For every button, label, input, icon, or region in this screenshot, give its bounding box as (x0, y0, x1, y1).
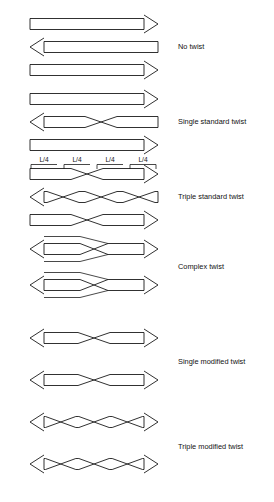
bar-row (30, 413, 158, 431)
segment-label-row: L/4L/4L/4L/4 (31, 156, 156, 169)
segment-label-quarter: L/4 (105, 156, 114, 163)
arrowhead-left (30, 188, 44, 206)
group-label-triple-standard-twist: Triple standard twist (178, 192, 244, 201)
bar-row (30, 15, 158, 33)
bar-rail-bottom (44, 459, 144, 470)
arrowhead-left (30, 240, 44, 258)
bar-rail-bottom (44, 244, 144, 255)
arrowhead-right (144, 371, 158, 389)
twist-group-single-standard-twist: Single standard twist (30, 90, 246, 154)
twist-configurations-figure: No twistSingle standard twistTriple stan… (0, 0, 274, 502)
bar-row (30, 237, 158, 262)
arrowhead-right (144, 413, 158, 431)
group-label-triple-modified-twist: Triple modified twist (178, 442, 243, 451)
arrowhead-right (144, 455, 158, 473)
arrowhead-left (30, 371, 44, 389)
twist-group-triple-standard-twist: Triple standard twist (30, 165, 244, 229)
guide-rail-upper (44, 273, 108, 280)
bar-rail-bottom (44, 117, 158, 128)
segment-label-quarter: L/4 (138, 156, 147, 163)
bar-row (30, 329, 158, 347)
arrowhead-left (30, 113, 44, 131)
bar-rail-bottom (44, 375, 144, 386)
guide-rail-lower (44, 255, 108, 262)
bar-row (30, 113, 158, 131)
guide-rail-lower (44, 291, 108, 298)
twist-group-triple-modified-twist: Triple modified twist (30, 413, 243, 473)
arrowhead-left (30, 276, 44, 294)
twist-group-single-modified-twist: Single modified twist (30, 329, 245, 389)
bar-rail-bottom (30, 169, 144, 180)
arrowhead-left (30, 413, 44, 431)
segment-label-quarter: L/4 (72, 156, 81, 163)
bar-rail-bottom (44, 333, 144, 344)
arrowhead-left (30, 455, 44, 473)
bar-row (30, 38, 158, 56)
bar-row (30, 273, 158, 298)
bar-row (30, 188, 158, 206)
group-label-no-twist: No twist (178, 42, 204, 51)
arrowhead-right (144, 15, 158, 33)
bar-row (30, 61, 158, 79)
arrowhead-right (144, 211, 158, 229)
group-label-complex-twist: Complex twist (178, 262, 224, 271)
bar-row (30, 211, 158, 229)
arrowhead-right (144, 329, 158, 347)
group-label-single-standard-twist: Single standard twist (178, 117, 246, 126)
bar-rail-bottom (44, 192, 158, 203)
bar-rail-bottom (44, 280, 144, 291)
group-label-single-modified-twist: Single modified twist (178, 357, 245, 366)
twist-group-complex-twist: Complex twist (30, 237, 224, 298)
segment-label-quarter: L/4 (39, 156, 48, 163)
bar-row (30, 165, 158, 183)
bar-row (30, 136, 158, 154)
bar-row (30, 90, 158, 108)
bar-rail-bottom (44, 417, 144, 428)
diagram-canvas: No twistSingle standard twistTriple stan… (0, 0, 274, 502)
arrowhead-left (30, 329, 44, 347)
arrowhead-right (144, 240, 158, 258)
arrowhead-right (144, 61, 158, 79)
arrowhead-right (144, 136, 158, 154)
bar-rail-bottom (30, 215, 144, 226)
arrowhead-right (144, 90, 158, 108)
bar-row (30, 371, 158, 389)
bar-row (30, 455, 158, 473)
guide-rail-upper (44, 237, 108, 244)
twist-group-no-twist: No twist (30, 15, 204, 79)
arrowhead-left (30, 38, 44, 56)
arrowhead-right (144, 276, 158, 294)
